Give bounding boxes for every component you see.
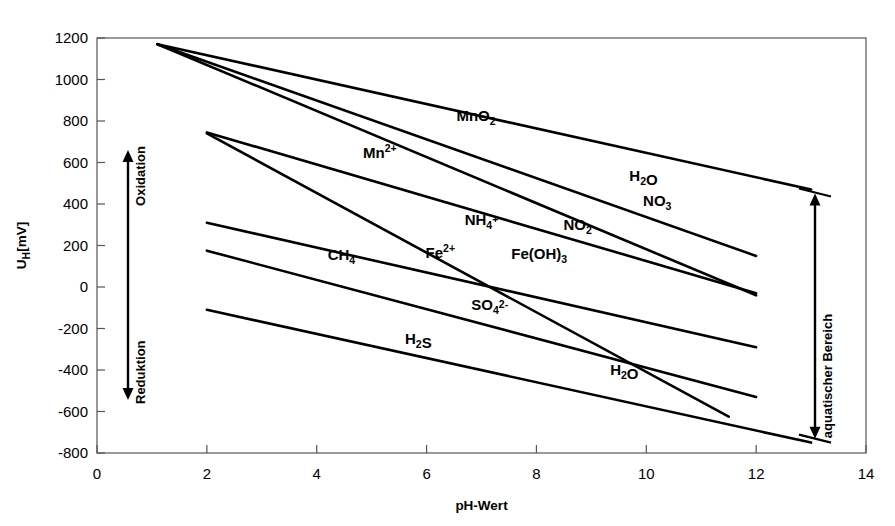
species-label-fe2: Fe2+: [426, 242, 456, 261]
y-tick-label: -800: [58, 444, 88, 461]
species-label-ch4: CH4: [328, 246, 356, 266]
y-tick-label: -600: [58, 403, 88, 420]
x-tick-label: 12: [748, 465, 765, 482]
species-label-h2o_up: H2O: [629, 167, 658, 188]
species-label-mn2: Mn2+: [363, 142, 397, 161]
figure-canvas: 02468101214 -800-600-400-200020040060080…: [0, 0, 895, 526]
species-label-so4: SO42-: [471, 296, 508, 316]
annotation-aquatischer-bereich: aquatischer Bereich: [820, 314, 835, 438]
boundary-curves: [157, 44, 811, 442]
annotation-reduktion: Reduktion: [133, 340, 148, 404]
axis-annotations: OxidationReduktionaquatischer Bereich: [123, 146, 836, 443]
y-axis-title: UH[mV]: [14, 222, 32, 269]
pourbaix-diagram: 02468101214 -800-600-400-200020040060080…: [0, 0, 895, 526]
boundary-line-no3-no2-steep-boundary: [157, 44, 756, 295]
species-label-h2o_lo: H2O: [610, 361, 639, 382]
x-tick-label: 6: [422, 465, 430, 482]
plot-border: [97, 38, 866, 453]
species-label-mno2: MnO2: [456, 107, 495, 127]
species-label-nh4: NH4+: [465, 211, 499, 231]
y-tick-label: 800: [63, 112, 88, 129]
svg-text:aquatischer Bereich: aquatischer Bereich: [820, 314, 835, 438]
x-tick-label: 8: [532, 465, 540, 482]
x-tick-label: 4: [313, 465, 321, 482]
annotation-oxidation: Oxidation: [133, 146, 148, 206]
y-tick-label: 400: [63, 195, 88, 212]
top-title-fragment: [0, 0, 895, 5]
x-axis-title: pH-Wert: [455, 498, 508, 513]
oxidation-reduktion-arrow-arrowhead-down: [123, 388, 134, 400]
species-label-feoh3: Fe(OH)3: [511, 245, 567, 265]
boundary-line-so42-h2s-boundary: [207, 251, 756, 397]
oxidation-reduktion-arrow-arrowhead-up: [123, 150, 134, 162]
aquatischer-bereich-arrow-arrowhead-up: [810, 193, 821, 205]
y-tick-label: 200: [63, 237, 88, 254]
y-tick-label: -400: [58, 361, 88, 378]
x-tick-label: 2: [203, 465, 211, 482]
boundary-line-mno2-mn2-boundary: [157, 44, 756, 256]
x-tick-label: 14: [858, 465, 875, 482]
svg-text:UH[mV]: UH[mV]: [14, 222, 32, 269]
plot-frame: [97, 38, 866, 453]
y-tick-label: 0: [80, 278, 88, 295]
boundary-line-h2o-lower-stability: [207, 310, 811, 443]
species-label-h2s: H2S: [405, 330, 432, 351]
x-tick-label: 0: [93, 465, 101, 482]
svg-text:Reduktion: Reduktion: [133, 340, 148, 404]
y-tick-label: 1200: [55, 29, 88, 46]
svg-text:Oxidation: Oxidation: [133, 146, 148, 206]
y-tick-label: 600: [63, 154, 88, 171]
x-tick-label: 10: [638, 465, 655, 482]
species-label-no2: NO2: [563, 216, 592, 236]
y-tick-label: 1000: [55, 71, 88, 88]
x-axis-ticks: 02468101214: [93, 445, 875, 482]
y-tick-label: -200: [58, 320, 88, 337]
species-label-no3: NO3: [643, 192, 672, 212]
